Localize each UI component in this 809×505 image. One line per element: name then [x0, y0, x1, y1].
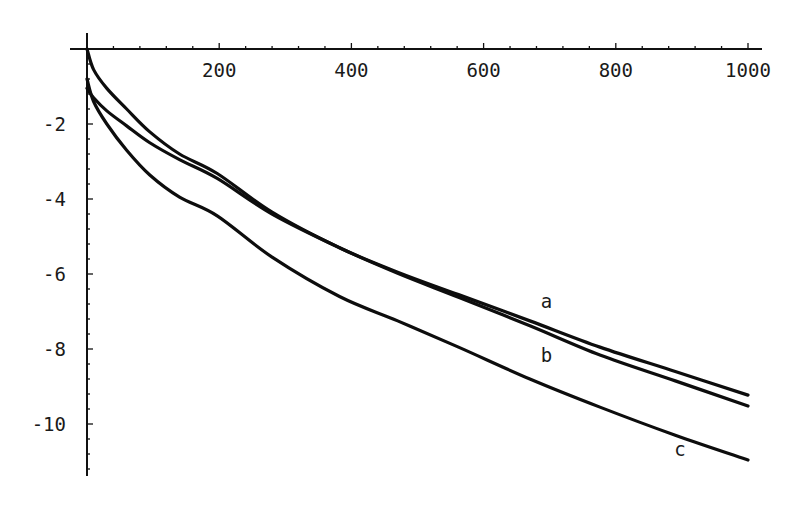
series-group [87, 49, 748, 460]
series-c-line [87, 79, 748, 460]
series-c-label: c [674, 438, 685, 460]
x-tick-label: 600 [466, 59, 500, 81]
y-tick-label: -2 [43, 113, 66, 135]
labels-group: abc [541, 290, 686, 460]
y-tick-label: -8 [43, 338, 66, 360]
x-tick-label: 1000 [725, 59, 771, 81]
x-tick-label: 800 [599, 59, 633, 81]
series-a-label: a [541, 290, 552, 312]
y-tick-label: -10 [32, 413, 66, 435]
y-tick-label: -6 [43, 263, 66, 285]
series-b-line [87, 88, 748, 406]
chart: 2004006008001000-2-4-6-8-10 abc [0, 0, 809, 505]
series-a-line [87, 49, 748, 395]
x-tick-label: 400 [334, 59, 368, 81]
ticks: 2004006008001000-2-4-6-8-10 [32, 43, 771, 469]
x-tick-label: 200 [202, 59, 236, 81]
axes: 2004006008001000-2-4-6-8-10 [32, 33, 771, 476]
y-tick-label: -4 [43, 188, 66, 210]
series-b-label: b [541, 344, 552, 366]
